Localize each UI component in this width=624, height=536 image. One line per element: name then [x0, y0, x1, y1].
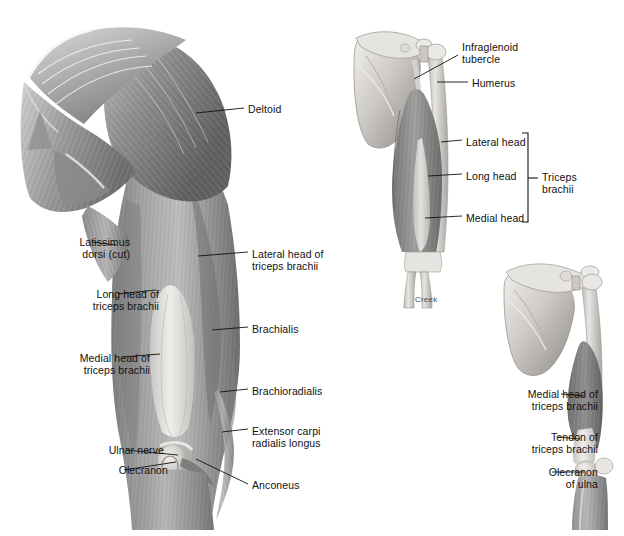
label-long-head: Long head	[466, 170, 517, 182]
figure2-triceps-three-heads	[354, 32, 448, 308]
anatomy-illustration-page: DeltoidLatissimus dorsi (cut)Lateral hea…	[0, 0, 624, 536]
label-infraglenoid-tubercle: Infraglenoid tubercle	[462, 41, 518, 66]
humeral-head	[426, 44, 446, 60]
label-olecranon-of-ulna: Olecranon of ulna	[494, 466, 598, 491]
label-medial-head-triceps: Medial head of triceps brachii	[46, 352, 150, 377]
label-extensor-carpi-radialis-longus: Extensor carpi radialis longus	[252, 425, 321, 450]
label-brachialis: Brachialis	[252, 323, 299, 335]
coracoid-3	[560, 271, 572, 281]
label-ulnar-nerve: Ulnar nerve	[60, 444, 164, 456]
coracoid	[400, 44, 410, 52]
label-lateral-head: Lateral head	[466, 136, 526, 148]
label-medial-head: Medial head	[466, 212, 524, 224]
infraglenoid-tubercle-mark	[420, 46, 428, 62]
glenoid-mark-3	[572, 276, 580, 290]
label-latissimus-dorsi-cut: Latissimus dorsi (cut)	[26, 236, 130, 261]
humeral-head-3	[582, 274, 602, 290]
label-anconeus: Anconeus	[252, 479, 300, 491]
label-tendon-triceps: Tendon of triceps brachii	[494, 431, 598, 456]
label-olecranon: Olecranon	[64, 464, 168, 476]
label-lateral-head-triceps: Lateral head of triceps brachii	[252, 248, 324, 273]
label-medial-head-triceps-2: Medial head of triceps brachii	[494, 388, 598, 413]
label-humerus: Humerus	[472, 77, 515, 89]
label-triceps-brachii-bracket: Triceps brachii	[542, 171, 577, 196]
label-deltoid: Deltoid	[248, 103, 281, 115]
forearm-fibers	[132, 470, 214, 531]
elbow-joint-2	[405, 252, 442, 272]
label-brachioradialis: Brachioradialis	[252, 385, 322, 397]
artist-signature: Creek	[415, 295, 437, 304]
label-long-head-triceps: Long head of triceps brachii	[55, 288, 159, 313]
